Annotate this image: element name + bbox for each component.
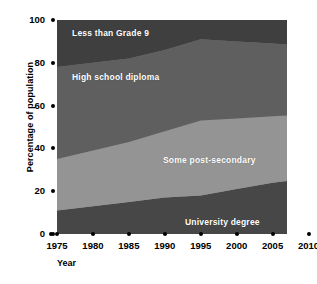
y-axis-tick-dot (51, 18, 55, 22)
y-axis-tick-label: 80 (34, 57, 45, 69)
y-axis-tick-label: 0 (40, 228, 45, 240)
x-axis-tick-dot (235, 232, 239, 236)
series-label-university-degree: University degree (185, 217, 260, 227)
y-axis-tick: 80 (0, 57, 57, 69)
x-axis-tick-dot (163, 232, 167, 236)
y-axis-tick-dot (51, 104, 55, 108)
y-axis-tick-dot (51, 146, 55, 150)
series-label-some-post-secondary: Some post-secondary (163, 155, 256, 165)
y-axis-tick-label: 100 (29, 14, 45, 26)
x-axis-tick-dot (271, 232, 275, 236)
y-axis-tick-label: 20 (34, 185, 45, 197)
y-axis-tick-dot (51, 189, 55, 193)
y-axis-tick-label: 60 (34, 100, 45, 112)
x-axis-tick-dot (91, 232, 95, 236)
x-axis-tick-label: 2000 (220, 240, 254, 251)
x-axis-tick-dot (127, 232, 131, 236)
x-axis-title: Year (57, 258, 76, 268)
x-axis-tick-label: 1995 (184, 240, 218, 251)
series-paths (57, 20, 287, 234)
origin-dot (49, 232, 53, 236)
y-axis-tick-dot (51, 61, 55, 65)
y-axis-tick: 20 (0, 185, 57, 197)
x-axis-tick-dot (199, 232, 203, 236)
series-label-less-than-grade-9: Less than Grade 9 (72, 28, 149, 38)
y-axis-tick: 40 (0, 142, 57, 154)
x-axis-tick-dot (55, 232, 59, 236)
x-axis-tick-label: 1985 (112, 240, 146, 251)
x-axis-tick-label: 1980 (76, 240, 110, 251)
plot-svg (57, 20, 287, 234)
x-axis-tick-label: 2005 (256, 240, 290, 251)
y-axis-tick-label: 40 (34, 142, 45, 154)
x-axis-tick-label: 2010 (292, 240, 317, 251)
x-axis-tick-label: 1975 (40, 240, 74, 251)
y-axis-title: Percentage of population (25, 22, 35, 212)
x-axis-tick-label: 1990 (148, 240, 182, 251)
x-axis-tick-dot (307, 232, 311, 236)
plot-area (57, 20, 287, 234)
stacked-area-chart: Less than Grade 9 High school diploma So… (0, 0, 317, 284)
y-axis-tick: 60 (0, 100, 57, 112)
series-label-high-school-diploma: High school diploma (72, 72, 159, 82)
y-axis-tick: 100 (0, 14, 57, 26)
